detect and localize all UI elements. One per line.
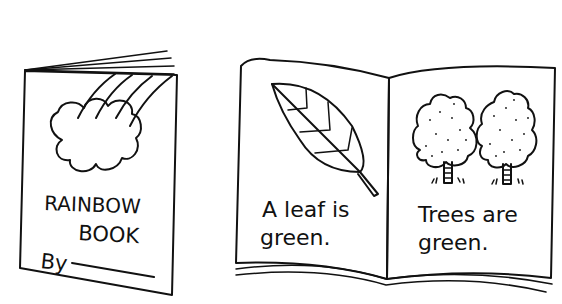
left-page-text-line2: green.	[260, 225, 331, 250]
book-title-line1: RAINBOW	[44, 191, 142, 218]
open-book: A leaf is green.	[236, 59, 555, 292]
closed-book: RAINBOW BOOK By	[20, 51, 177, 295]
cloud-icon	[51, 99, 141, 172]
author-blank-line	[72, 263, 154, 277]
illustration: RAINBOW BOOK By A leaf is green.	[0, 0, 562, 304]
right-page-text-line2: green.	[418, 230, 489, 255]
author-prefix: By	[39, 249, 68, 276]
right-page-text-line1: Trees are	[417, 202, 518, 227]
left-page-text-line1: A leaf is	[262, 197, 349, 222]
leaf-icon	[272, 84, 378, 196]
book-title-line2: BOOK	[78, 221, 141, 248]
trees-icon	[413, 91, 536, 184]
